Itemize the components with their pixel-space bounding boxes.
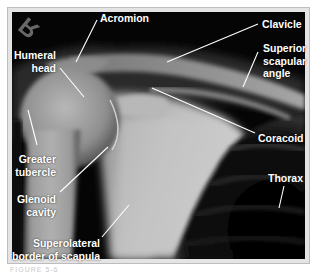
label-clavicle: Clavicle	[262, 18, 302, 31]
label-superior-scapular-angle-line2: scapular	[263, 55, 306, 68]
label-glenoid-cavity-line2: cavity	[14, 206, 56, 219]
label-greater-tubercle-line1: Greater	[14, 153, 56, 166]
label-acromion: Acromion	[100, 12, 149, 25]
label-thorax: Thorax	[268, 172, 303, 185]
figure-caption: FIGURE 5-6	[10, 266, 59, 273]
label-coracoid: Coracoid	[258, 132, 304, 145]
label-glenoid-cavity-line1: Glenoid	[14, 193, 56, 206]
label-superolateral-border-line1: Superolateral	[12, 237, 100, 250]
label-superior-scapular-angle-line1: Superior	[263, 42, 306, 55]
label-humeral-head: Humeral head	[14, 49, 56, 74]
label-humeral-head-line1: Humeral	[14, 49, 56, 62]
label-greater-tubercle: Greater tubercle	[14, 153, 56, 178]
label-superolateral-border-line2: border of scapula	[12, 250, 100, 263]
label-superolateral-border: Superolateral border of scapula	[12, 237, 100, 262]
label-superior-scapular-angle: Superior scapular angle	[263, 42, 306, 80]
label-superior-scapular-angle-line3: angle	[263, 67, 306, 80]
label-humeral-head-line2: head	[14, 62, 56, 75]
label-glenoid-cavity: Glenoid cavity	[14, 193, 56, 218]
label-greater-tubercle-line2: tubercle	[14, 166, 56, 179]
